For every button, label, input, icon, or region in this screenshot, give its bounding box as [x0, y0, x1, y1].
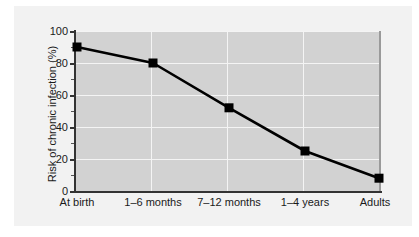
figure-container: 100 80 60 40 20 0 Risk of chronic infect…: [0, 0, 419, 237]
data-series-layer: [0, 0, 419, 237]
data-point-adults: [375, 174, 384, 183]
data-point-1-6-months: [149, 59, 158, 68]
data-point-at-birth: [73, 43, 82, 52]
data-point-7-12-months: [225, 103, 234, 112]
series-line: [77, 47, 379, 178]
data-point-1-4-years: [301, 147, 310, 156]
